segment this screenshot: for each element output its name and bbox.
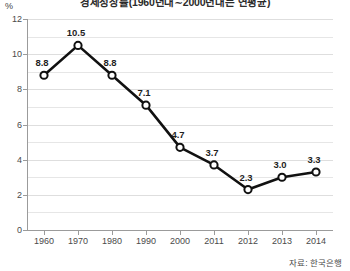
gridline (27, 212, 333, 213)
x-axis-tick-mark (248, 231, 249, 235)
y-axis-tick-mark (23, 125, 27, 126)
data-point-label: 3.7 (205, 147, 218, 158)
y-axis-tick-mark (23, 54, 27, 55)
data-point-label: 3.0 (273, 159, 286, 170)
gridline (27, 54, 333, 55)
gridline (27, 142, 333, 143)
gridline (27, 177, 333, 178)
gridline (27, 107, 333, 108)
data-point-label: 10.5 (67, 27, 86, 38)
x-axis-tick-mark (214, 231, 215, 235)
chart-title: 경제성장률(1960년대∼2000년대는 연평균) (0, 0, 350, 9)
source-note: 자료: 한국은행 (289, 256, 342, 268)
y-axis-tick-mark (23, 195, 27, 196)
y-axis-tick-mark (23, 160, 27, 161)
y-axis-tick-label: 10 (0, 49, 22, 59)
gridline (27, 89, 333, 90)
y-axis-tick-label: 6 (0, 120, 22, 130)
data-point-label: 8.8 (103, 57, 116, 68)
y-axis-tick-label: 2 (0, 190, 22, 200)
x-axis-tick-mark (180, 231, 181, 235)
y-axis-tick-label: 12 (0, 14, 22, 24)
y-axis-tick-mark (23, 19, 27, 20)
data-point-label: 2.3 (239, 172, 252, 183)
y-axis-tick-mark (23, 89, 27, 90)
y-axis-tick-label: 8 (0, 84, 22, 94)
gridline (27, 72, 333, 73)
y-axis-line (27, 19, 28, 230)
growth-rate-line-chart: 경제성장률(1960년대∼2000년대는 연평균) % 024681012 19… (0, 0, 350, 271)
x-axis-tick-mark (316, 231, 317, 235)
data-point-label: 7.1 (137, 87, 150, 98)
x-axis-tick-mark (282, 231, 283, 235)
gridline (27, 19, 333, 20)
y-axis-tick-mark (23, 230, 27, 231)
x-axis-tick-label: 2014 (293, 236, 339, 246)
y-axis-unit-label: % (5, 1, 13, 11)
x-axis-tick-mark (146, 231, 147, 235)
gridline (27, 195, 333, 196)
data-point-label: 4.7 (171, 129, 184, 140)
y-axis-tick-label: 0 (0, 225, 22, 235)
gridline (27, 160, 333, 161)
plot-area (27, 19, 333, 230)
x-axis-tick-mark (78, 231, 79, 235)
y-axis-tick-label: 4 (0, 155, 22, 165)
x-axis-tick-mark (44, 231, 45, 235)
x-axis-tick-mark (112, 231, 113, 235)
data-point-label: 8.8 (35, 57, 48, 68)
gridline (27, 125, 333, 126)
data-point-label: 3.3 (307, 154, 320, 165)
